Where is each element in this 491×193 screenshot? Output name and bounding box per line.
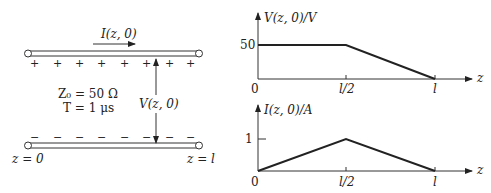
x-tick-0: 0	[251, 82, 259, 96]
current-arrow: I(z, 0)	[93, 27, 137, 44]
x-tick-0: 0	[251, 175, 259, 189]
y-tick-50: 50	[240, 38, 255, 52]
minus-sign: −	[53, 131, 62, 144]
minus-sign: −	[120, 131, 129, 144]
current-chart: I(z, 0)/A z 1 0 l/2 l	[245, 103, 484, 189]
voltage-label: V(z, 0)	[139, 97, 179, 111]
plus-sign: +	[75, 57, 84, 70]
plus-sign: +	[186, 57, 195, 70]
voltage-chart: V(z, 0)/V z 50 0 l/2 l	[240, 11, 484, 96]
minus-charges: − − − − − − − −	[30, 131, 195, 144]
impedance-label: Z₀ = 50 Ω	[58, 87, 118, 101]
x-tick-l: l	[433, 82, 437, 96]
plus-sign: +	[120, 57, 129, 70]
transmission-line-diagram: + + + + + + + + I(z, 0) V(z, 0) Z₀ = 50 …	[11, 27, 215, 166]
x-tick-half-l: l/2	[339, 82, 355, 96]
plus-sign: +	[53, 57, 62, 70]
voltage-curve	[258, 45, 435, 79]
plus-sign: +	[30, 57, 39, 70]
x-tick-half-l: l/2	[339, 175, 355, 189]
terminal-bottom-right	[196, 142, 203, 149]
y-axis-label: I(z, 0)/A	[263, 103, 313, 117]
current-curve	[258, 139, 435, 171]
plus-sign: +	[142, 57, 151, 70]
top-conductor	[25, 50, 203, 57]
period-label: T = 1 μs	[63, 101, 114, 115]
current-label: I(z, 0)	[100, 27, 137, 41]
minus-sign: −	[165, 131, 174, 144]
right-end-label: z = l	[186, 152, 215, 166]
x-axis-label: z	[476, 163, 484, 177]
bottom-conductor	[25, 142, 203, 149]
y-tick-1: 1	[245, 132, 253, 146]
x-tick-l: l	[433, 175, 437, 189]
x-axis-label: z	[476, 71, 484, 85]
minus-sign: −	[75, 131, 84, 144]
plus-charges: + + + + + + + +	[30, 57, 195, 70]
left-end-label: z = 0	[11, 152, 44, 166]
minus-sign: −	[30, 131, 39, 144]
figure: + + + + + + + + I(z, 0) V(z, 0) Z₀ = 50 …	[0, 0, 491, 193]
terminal-top-left	[25, 50, 32, 57]
y-axis-label: V(z, 0)/V	[264, 11, 318, 25]
plus-sign: +	[97, 57, 106, 70]
terminal-bottom-left	[25, 142, 32, 149]
minus-sign: −	[142, 131, 151, 144]
plus-sign: +	[165, 57, 174, 70]
minus-sign: −	[97, 131, 106, 144]
minus-sign: −	[186, 131, 195, 144]
terminal-top-right	[196, 50, 203, 57]
